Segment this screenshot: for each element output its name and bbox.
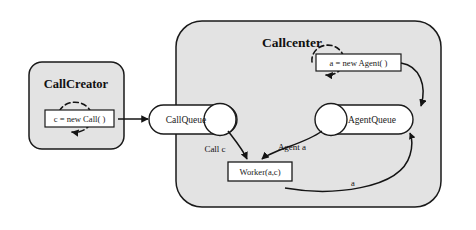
- call-statement-label: c = new Call( ): [54, 114, 106, 124]
- call-statement[interactable]: c = new Call( ): [45, 110, 114, 127]
- call-queue-port: [204, 104, 236, 136]
- agent-statement[interactable]: a = new Agent( ): [316, 54, 401, 71]
- worker-label: Worker(a,c): [239, 167, 280, 177]
- agent-queue-port: [315, 104, 347, 136]
- agent-statement-label: a = new Agent( ): [330, 58, 388, 68]
- callcenter-title: Callcenter: [262, 35, 322, 50]
- call-queue-label: CallQueue: [166, 115, 207, 125]
- edge-label-call-c: Call c: [204, 144, 225, 154]
- edge-label-a-return: a: [351, 178, 355, 188]
- callcreator-component[interactable]: CallCreator: [29, 62, 124, 149]
- agent-queue-node[interactable]: AgentQueue: [315, 104, 413, 136]
- diagram-canvas: Callcenter CallCreator c = new Call( ) a…: [0, 0, 476, 230]
- callcreator-box: [29, 62, 124, 149]
- worker-node[interactable]: Worker(a,c): [228, 162, 292, 181]
- agent-queue-label: AgentQueue: [348, 115, 396, 125]
- edge-label-agent-a: Agent a: [278, 142, 306, 152]
- callcreator-title: CallCreator: [44, 77, 109, 91]
- call-queue-node[interactable]: CallQueue: [149, 104, 237, 136]
- uml-collaboration-diagram: Callcenter CallCreator c = new Call( ) a…: [0, 0, 476, 230]
